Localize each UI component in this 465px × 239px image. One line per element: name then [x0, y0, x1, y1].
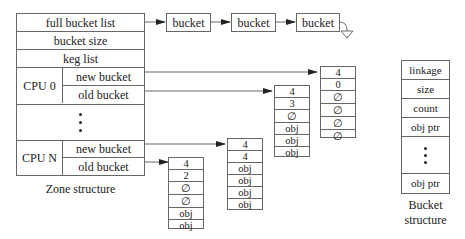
- bucket-cell: obj: [228, 187, 262, 199]
- keg-list-field: keg list: [17, 50, 144, 68]
- cpu0-label-cell: CPU 0: [17, 68, 63, 103]
- bucket-size-field: bucket size: [17, 32, 144, 50]
- bucket-cell: obj: [275, 147, 309, 158]
- bucket-cell: 4: [321, 67, 355, 79]
- bucket-cell: obj: [228, 175, 262, 187]
- vertical-ellipsis-icon: [424, 147, 427, 164]
- bucket-cell: ∅: [321, 130, 355, 142]
- bucket-size-label: bucket size: [54, 35, 108, 47]
- bucket-cell: 4: [275, 86, 309, 98]
- obj-ptr-field-last: obj ptr: [402, 174, 449, 193]
- cpuN-label: CPU N: [22, 152, 57, 164]
- cpuN-block: CPU N new bucket old bucket: [17, 140, 144, 175]
- bucket-cell: 3: [275, 98, 309, 110]
- bucket-cell: obj: [275, 135, 309, 147]
- zone-structure: full bucket list bucket size keg list CP…: [16, 13, 145, 176]
- bucket-cell: obj: [275, 123, 309, 135]
- bucket-cell: ∅: [169, 182, 203, 195]
- bucket-cell: obj: [169, 208, 203, 220]
- bucket-cell: obj: [228, 163, 262, 175]
- full-list-bucket-3-label: bucket: [302, 17, 334, 29]
- bucket-structure: linkage size count obj ptr obj ptr: [401, 60, 450, 194]
- full-list-bucket-2: bucket: [231, 13, 276, 32]
- full-list-bucket-2-label: bucket: [238, 17, 270, 29]
- bucket-cell: obj: [228, 199, 262, 210]
- cpu0-old-bucket-field: old bucket: [63, 86, 144, 103]
- bucket-cell: 4: [169, 158, 203, 170]
- bucket-cell: ∅: [169, 195, 203, 208]
- bucket-cell: ∅: [321, 104, 355, 117]
- bucket-structure-caption: Bucket structure: [395, 198, 456, 228]
- cpu0-new-bucket: 4 0 ∅ ∅ ∅ ∅: [320, 66, 356, 138]
- cpuN-new-bucket-label: new bucket: [76, 143, 131, 155]
- cpu0-new-bucket-label: new bucket: [76, 71, 131, 83]
- cpu0-new-bucket-field: new bucket: [63, 68, 144, 86]
- bucket-caption-line1: Bucket: [395, 198, 456, 213]
- bucket-cell: 4: [228, 151, 262, 163]
- bucket-cell: ∅: [321, 91, 355, 104]
- bucket-cell: 2: [169, 170, 203, 182]
- bucket-cell: 0: [321, 79, 355, 91]
- obj-ptr-label: obj ptr: [411, 178, 440, 189]
- full-list-bucket-3: bucket: [296, 13, 340, 32]
- cpuN-old-bucket: 4 2 ∅ ∅ obj obj: [168, 157, 204, 229]
- cpuN-old-bucket-label: old bucket: [78, 161, 128, 173]
- obj-ptr-field-first: obj ptr: [402, 118, 449, 137]
- cpu0-old-bucket: 4 3 ∅ obj obj obj: [274, 85, 310, 157]
- cpu0-block: CPU 0 new bucket old bucket: [17, 68, 144, 105]
- full-bucket-list-label: full bucket list: [46, 17, 115, 29]
- obj-ptr-label: obj ptr: [411, 122, 440, 133]
- cpuN-new-bucket-field: new bucket: [63, 140, 144, 158]
- cpuN-new-bucket: 4 4 obj obj obj obj: [227, 138, 263, 210]
- full-bucket-list-field: full bucket list: [17, 14, 144, 32]
- bucket-caption-line2: structure: [395, 213, 456, 228]
- linkage-field: linkage: [402, 61, 449, 80]
- bucket-cell: 4: [228, 139, 262, 151]
- cpu-ellipsis: [17, 104, 144, 141]
- full-list-bucket-1-label: bucket: [173, 17, 205, 29]
- obj-ptr-ellipsis: [402, 137, 449, 174]
- bucket-cell: obj: [169, 220, 203, 231]
- cpuN-old-bucket-field: old bucket: [63, 158, 144, 175]
- linkage-label: linkage: [409, 65, 441, 76]
- count-label: count: [413, 103, 437, 114]
- size-label: size: [417, 84, 434, 95]
- size-field: size: [402, 80, 449, 99]
- zone-structure-caption: Zone structure: [16, 182, 145, 197]
- count-field: count: [402, 99, 449, 118]
- cpu0-label: CPU 0: [23, 80, 55, 92]
- keg-list-label: keg list: [63, 53, 98, 65]
- bucket-cell: ∅: [275, 110, 309, 123]
- bucket-cell: ∅: [321, 117, 355, 130]
- cpuN-label-cell: CPU N: [17, 140, 63, 175]
- full-list-bucket-1: bucket: [166, 13, 211, 32]
- vertical-ellipsis-icon: [79, 113, 82, 132]
- cpu0-old-bucket-label: old bucket: [78, 89, 128, 101]
